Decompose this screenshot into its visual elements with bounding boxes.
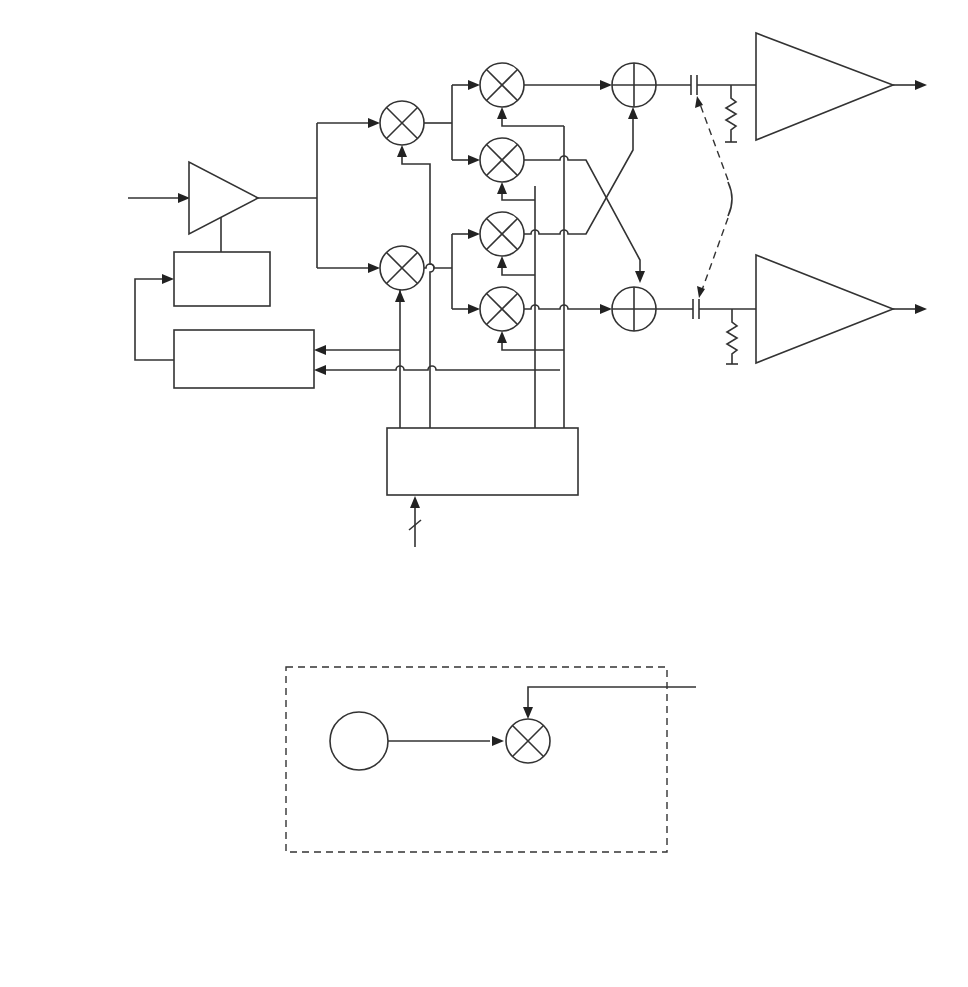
resistor-i [726, 85, 736, 142]
mixer-1-bottom [380, 246, 424, 290]
channel-select-arrow-icon [410, 496, 420, 508]
adder-i [612, 63, 656, 107]
lna-amplifier [189, 162, 258, 234]
image-reject-pll-block [174, 330, 314, 388]
receiver-block-diagram [0, 0, 968, 987]
adder-q [612, 287, 656, 331]
lo-synthesizer-block [387, 428, 578, 495]
mixer-2a [480, 63, 524, 107]
tracking-filter-block [174, 252, 270, 306]
mixer-2d [480, 287, 524, 331]
part-b-diagram [286, 667, 696, 852]
mixer-1-top [380, 101, 424, 145]
part-a-diagram [128, 33, 927, 547]
baseband-buffer-i [756, 33, 893, 140]
pll-mixer [506, 719, 550, 763]
baseband-buffer-q [756, 255, 893, 363]
mixer-2b [480, 138, 524, 182]
resistor-q [727, 309, 737, 364]
mixer-2c [480, 212, 524, 256]
vco-block [330, 712, 388, 770]
